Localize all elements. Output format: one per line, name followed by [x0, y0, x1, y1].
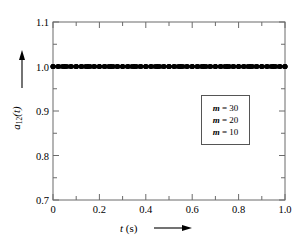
data-point-marker — [178, 64, 183, 69]
data-point-marker — [283, 64, 288, 69]
data-point-marker — [85, 64, 90, 69]
legend-item-m30: m = 30 — [213, 103, 239, 114]
data-series — [51, 64, 288, 69]
y-axis-title-arg: (t) — [10, 106, 22, 116]
legend-value: = 30 — [222, 103, 238, 113]
data-point-marker — [190, 64, 195, 69]
y-axis-title: a12(t) — [4, 58, 30, 178]
x-tick-label: 1.0 — [278, 204, 291, 215]
legend-var: m — [213, 115, 220, 125]
legend-item-m20: m = 20 — [213, 115, 239, 126]
data-point-marker — [132, 64, 137, 69]
legend-var: m — [213, 103, 220, 113]
data-point-marker — [248, 64, 253, 69]
y-tick-label: 0.9 — [36, 106, 49, 117]
data-point-marker — [109, 64, 114, 69]
data-point-marker — [225, 64, 230, 69]
data-point-marker — [213, 64, 218, 69]
x-tick-label: 0.6 — [186, 204, 199, 215]
data-point-marker — [155, 64, 160, 69]
y-tick-label: 0.7 — [36, 195, 49, 206]
y-axis-title-subscript: 12 — [15, 117, 24, 125]
legend-item-m10: m = 10 — [213, 127, 239, 138]
x-axis-title: t (s) — [120, 222, 137, 234]
legend-value: = 10 — [222, 127, 238, 137]
x-tick-label: 0.4 — [139, 204, 153, 215]
y-tick-label: 1.1 — [36, 17, 49, 28]
data-point-marker — [236, 64, 241, 69]
x-axis-title-unit: (s) — [126, 222, 138, 234]
y-tick-label: 0.8 — [36, 151, 49, 162]
data-point-marker — [143, 64, 148, 69]
y-axis-title-var: a — [10, 124, 22, 130]
x-tick-label: 0 — [50, 204, 55, 215]
data-point-marker — [259, 64, 264, 69]
x-tick-label: 0.2 — [93, 204, 106, 215]
chart-figure: 1.1 1.0 0.9 0.8 0.7 0 0.2 0.4 0.6 0.8 — [0, 0, 302, 244]
data-point-marker — [62, 64, 67, 69]
x-axis-title-var: t — [120, 222, 123, 234]
data-point-marker — [97, 64, 102, 69]
legend-var: m — [213, 127, 220, 137]
legend-box: m = 30 m = 20 m = 10 — [201, 95, 250, 145]
data-point-marker — [120, 64, 125, 69]
data-series-layer — [51, 64, 288, 69]
data-point-marker — [271, 64, 276, 69]
y-tick-label: 1.0 — [36, 62, 49, 73]
data-point-marker — [201, 64, 206, 69]
data-point-marker — [51, 64, 56, 69]
legend-value: = 20 — [222, 115, 238, 125]
data-point-marker — [74, 64, 79, 69]
data-point-marker — [167, 64, 172, 69]
x-tick-label: 0.8 — [232, 204, 245, 215]
